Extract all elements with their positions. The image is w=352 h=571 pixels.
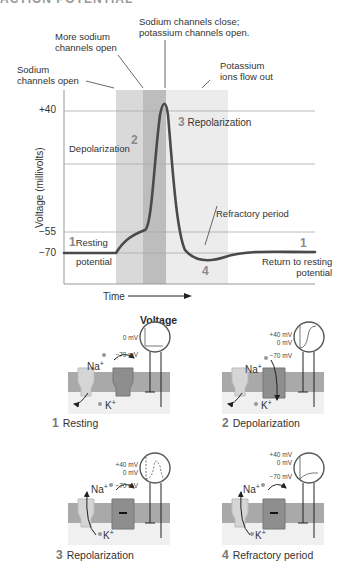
band-sodium-open (116, 90, 143, 284)
label-refractory: Refractory period (216, 208, 289, 219)
panel3-mv-0: +40 mV (102, 461, 138, 468)
panel4-caption: 4Refractory period (222, 548, 313, 562)
panel3-mv-1: 0 mV (102, 469, 138, 476)
x-axis-label: Time (103, 291, 125, 302)
phase-number-3: 3 (178, 115, 185, 129)
y-tick-plus40: +40 (28, 104, 56, 115)
annotation-sodium-open: Sodiumchannels open (17, 64, 79, 86)
y-axis-label: Voltage (millivolts) (34, 147, 45, 228)
panel4-mv-1: 0 mV (256, 459, 292, 466)
panel1-na-ion: Na+ (87, 360, 104, 372)
annotation-more-sodium: More sodiumchannels open (55, 31, 117, 53)
panel3-k-ion: K+ (103, 529, 114, 541)
label-repolarization: 3 Repolarization (178, 117, 251, 128)
panel3-na-ion: Na+ (91, 483, 108, 495)
label-resting: 1Resting (69, 237, 108, 248)
panel2-mv-1: 0 mV (256, 339, 292, 346)
panel3-caption: 3Repolarization (56, 548, 134, 562)
panel2-caption: 2Depolarization (222, 416, 300, 430)
panel2-mv-2: −70 mV (256, 352, 292, 359)
panel2-na-ion: Na+ (245, 363, 262, 375)
panel4-k-ion: K+ (255, 529, 266, 541)
label-return-resting: Return to restingpotential (262, 256, 332, 278)
band-more-sodium (143, 90, 166, 284)
phase-number-1-return: 1 (300, 236, 307, 250)
panel1-caption: 1Resting (52, 416, 98, 430)
label-depolarization: Depolarization (69, 143, 130, 154)
panels-illustration (0, 320, 352, 571)
panel1-k-ion: K+ (105, 399, 116, 411)
y-tick-minus70: −70 (28, 247, 56, 258)
panel2-mv-0: +40 mV (256, 331, 292, 338)
panel2-k-ion: K+ (261, 399, 272, 411)
panel1-mv-1: −70 mV (102, 351, 138, 358)
annotation-channels-close: Sodium channels close;potassium channels… (139, 16, 249, 38)
panel4-na-ion: Na+ (243, 483, 260, 495)
annotation-potassium-out: Potassiumions flow out (220, 60, 273, 82)
panel4-mv-0: +40 mV (256, 451, 292, 458)
phase-number-2: 2 (131, 133, 138, 147)
panel1-mv-0: 0 mV (102, 334, 138, 341)
panel-refractory (222, 453, 324, 545)
panel4-mv-2: −70 mV (256, 473, 292, 480)
phase-number-1: 1 (69, 235, 76, 249)
label-potential: potential (76, 256, 112, 267)
phase-number-4: 4 (202, 264, 209, 278)
